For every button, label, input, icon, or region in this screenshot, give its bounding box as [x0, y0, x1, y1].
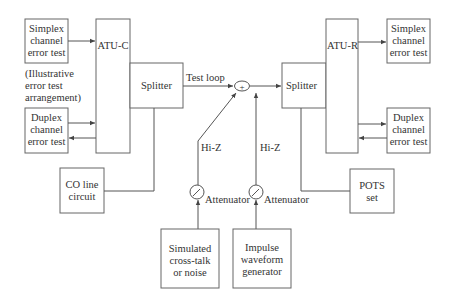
simplex-right-line3: error test — [390, 47, 428, 58]
summer-plus-icon: + — [239, 82, 244, 92]
duplex-left-line2: channel — [30, 124, 63, 135]
co-line-line2: circuit — [69, 191, 96, 202]
simulated-line2: cross-talk — [170, 255, 212, 266]
atu-c-label: ATU-C — [98, 40, 129, 51]
duplex-right-line2: channel — [392, 124, 425, 135]
splitter-right-block: Splitter — [282, 63, 326, 108]
duplex-right-line3: error test — [390, 136, 428, 147]
simulated-line3: or noise — [173, 267, 207, 278]
simplex-channel-error-test-right: Simplex channel error test — [387, 19, 430, 63]
duplex-channel-error-test-right: Duplex channel error test — [387, 108, 430, 153]
co-line-line1: CO line — [66, 179, 99, 190]
splitter-left-block: Splitter — [130, 63, 183, 108]
attenuator-left-label: Attenuator — [205, 194, 250, 205]
hiz-right-label: Hi-Z — [260, 142, 280, 153]
impulse-line2: waveform — [241, 254, 284, 265]
splitter-left-label: Splitter — [141, 80, 172, 91]
test-loop-label: Test loop — [186, 72, 225, 83]
simplex-channel-error-test-left: Simplex channel error test — [25, 19, 68, 63]
impulse-waveform-generator-block: Impulse waveform generator — [233, 229, 291, 288]
note-line3: arrangement) — [25, 92, 81, 104]
atu-c-block: ATU-C — [96, 19, 130, 153]
pots-set-block: POTS set — [350, 169, 394, 213]
line-hiz-left — [198, 93, 236, 185]
impulse-line1: Impulse — [245, 242, 279, 253]
atu-r-block: ATU-R — [326, 19, 358, 153]
impulse-line3: generator — [242, 266, 282, 277]
simulated-crosstalk-block: Simulated cross-talk or noise — [161, 229, 219, 288]
attenuator-left — [190, 185, 204, 199]
simplex-left-line3: error test — [28, 47, 66, 58]
note-line2: error test — [25, 80, 63, 91]
note-line1: (Illustrative — [25, 68, 74, 80]
simulated-line1: Simulated — [169, 243, 212, 254]
simplex-right-line2: channel — [392, 35, 425, 46]
pots-line2: set — [366, 192, 378, 203]
illustrative-note: (Illustrative error test arrangement) — [25, 68, 81, 104]
adsl-test-diagram: Simplex channel error test (Illustrative… — [0, 0, 454, 304]
hiz-left-label: Hi-Z — [201, 142, 221, 153]
co-line-circuit-block: CO line circuit — [60, 168, 104, 213]
atu-r-label: ATU-R — [327, 40, 358, 51]
attenuator-right-label: Attenuator — [264, 194, 309, 205]
duplex-left-line1: Duplex — [31, 112, 63, 123]
simplex-left-line2: channel — [30, 35, 63, 46]
splitter-right-label: Splitter — [286, 80, 317, 91]
simplex-left-line1: Simplex — [29, 23, 65, 34]
duplex-right-line1: Duplex — [393, 112, 425, 123]
simplex-right-line1: Simplex — [391, 23, 427, 34]
duplex-channel-error-test-left: Duplex channel error test — [25, 108, 68, 153]
duplex-left-line3: error test — [28, 136, 66, 147]
summing-junction: + — [235, 81, 250, 92]
pots-line1: POTS — [359, 180, 385, 191]
attenuator-right — [249, 185, 263, 199]
